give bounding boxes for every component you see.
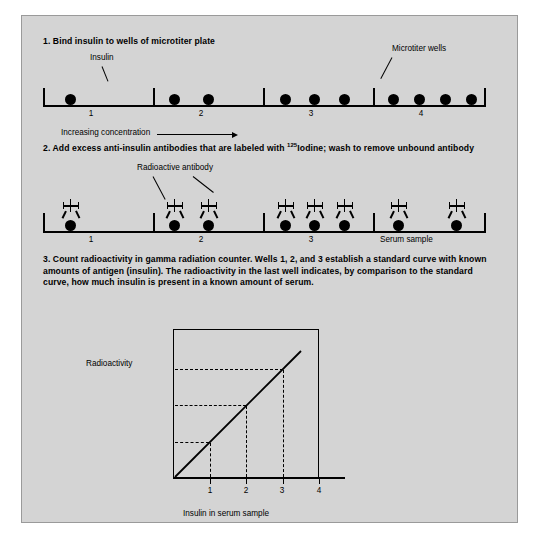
antigen-dot [169,94,180,105]
antigen-dot [309,94,320,105]
x-tick-3 [283,479,284,484]
radioactive-antibody-icon [275,199,297,225]
well-divider [43,88,45,107]
antigen-dot [203,94,214,105]
antigen-dot [280,94,291,105]
radioactive-antibody-icon [388,199,410,225]
radioactive-antibody-icon [334,199,356,225]
figure-panel: 1. Bind insulin to wells of microtiter p… [21,15,518,523]
well-divider [43,213,45,233]
microtiter-wells-leader-line [380,57,392,79]
well-number-4: 4 [414,109,428,118]
chart-x-axis-label: Insulin in serum sample [183,509,269,518]
antigen-dot [440,94,451,105]
x-tick-label-1: 1 [203,486,217,495]
x-tick-label-4: 4 [312,486,326,495]
insulin-leader-line [102,66,109,81]
well-number-1: 1 [84,235,98,244]
antigen-dot [414,94,425,105]
concentration-arrow-head [232,132,238,138]
well-divider [263,88,265,107]
well-divider [373,213,375,233]
standard-curve-chart [173,329,319,479]
step-3-title: 3. Count radioactivity in gamma radiatio… [43,254,498,289]
well-number-3: 3 [304,235,318,244]
well-number-3: 3 [304,109,318,118]
chart-y-axis-label: Radioactivity [86,359,132,368]
antigen-dot [388,94,399,105]
serum-sample-label: Serum sample [380,235,433,244]
increasing-concentration-label: Increasing concentration [61,128,150,137]
step-2-text-b: Iodine; wash to remove unbound antibody [297,143,474,153]
radioactive-antibody-label: Radioactive antibody [137,163,213,172]
microtiter-wells-label: Microtiter wells [392,44,446,53]
radioactive-antibody-icon [60,199,82,225]
antigen-dot [65,94,76,105]
well-number-1: 1 [84,109,98,118]
well-divider [484,213,486,233]
x-tick-1 [210,479,211,484]
well-divider [153,88,155,107]
x-tick-2 [246,479,247,484]
step-2-title: 2. Add excess anti-insulin antibodies th… [43,140,503,154]
antigen-dot [466,94,477,105]
well-number-2: 2 [194,109,208,118]
antigen-dot [339,94,350,105]
plate-row-step-1 [43,82,486,107]
x-tick-label-3: 3 [275,486,289,495]
standard-curve-line [173,329,319,479]
well-number-2: 2 [194,235,208,244]
radioactive-antibody-leader-line-1 [153,176,166,199]
concentration-arrow-shaft [157,134,233,135]
radioactive-antibody-leader-line-2 [193,176,214,193]
insulin-label: Insulin [90,53,114,62]
radioactive-antibody-icon [446,199,468,225]
x-tick-label-2: 2 [239,486,253,495]
well-divider [153,213,155,233]
step-2-text-a: 2. Add excess anti-insulin antibodies th… [43,143,287,153]
well-divider [484,88,486,107]
radioactive-antibody-icon [164,199,186,225]
radioactive-antibody-icon [304,199,326,225]
well-divider [263,213,265,233]
radioactive-antibody-icon [198,199,220,225]
x-tick-4 [319,479,320,484]
plate-row-step-2 [43,199,486,233]
step-2-superscript: 125 [287,142,297,148]
well-divider [373,88,375,107]
